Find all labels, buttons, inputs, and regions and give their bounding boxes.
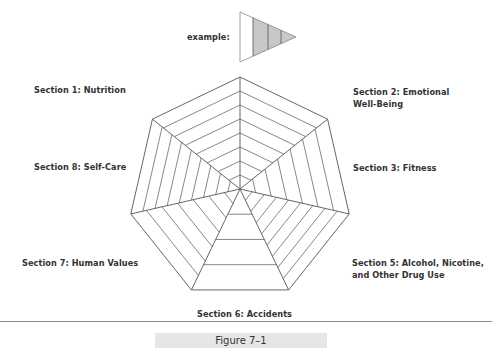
section-1-label: Section 1: Nutrition (34, 85, 126, 96)
heptagon-chart (131, 77, 349, 290)
section-5-label-line1: Section 5: Alcohol, Nicotine, (352, 258, 484, 269)
wellness-heptagon-diagram (0, 0, 492, 348)
section-2-label-line1: Section 2: Emotional (353, 87, 449, 98)
figure-caption: Figure 7–1 (155, 333, 327, 348)
example-triangle-icon (240, 12, 296, 62)
section-5-label-line2: and Other Drug Use (352, 270, 445, 281)
example-label: example: (187, 32, 230, 43)
section-8-label: Section 8: Self-Care (34, 162, 126, 173)
section-6-label: Section 6: Accidents (197, 309, 292, 320)
section-2-label-line2: Well-Being (353, 99, 403, 110)
section-7-label: Section 7: Human Values (22, 258, 138, 269)
separator-line (0, 321, 492, 322)
section-3-label: Section 3: Fitness (353, 163, 437, 174)
